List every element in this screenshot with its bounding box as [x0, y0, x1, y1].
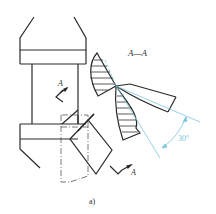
upper-body [20, 17, 86, 124]
lower-body [20, 110, 86, 168]
figure-caption: a) [89, 197, 96, 206]
tilted-insert [70, 114, 112, 174]
section-upper-lens [90, 53, 116, 96]
technical-drawing: A A A—A [0, 0, 216, 214]
section-view-label: A—A [127, 48, 148, 58]
section-marker-bottom [110, 165, 131, 174]
section-marker-top [56, 88, 67, 102]
section-lower-lens [115, 86, 140, 140]
angle-label: 30° [178, 134, 189, 143]
section-marker-bottom-label: A [130, 168, 136, 177]
section-marker-top-label: A [57, 79, 63, 88]
